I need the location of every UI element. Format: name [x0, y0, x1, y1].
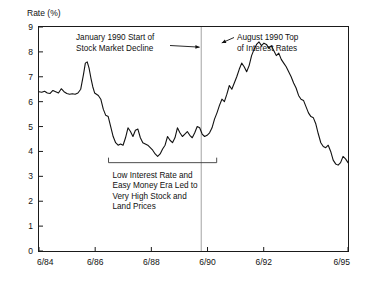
y-tick-label: 2: [28, 196, 33, 206]
annotation-line: Easy Money Era Led to: [113, 181, 199, 190]
chart-canvas: Rate (%) 0123456789 6/846/866/886/906/92…: [0, 0, 374, 284]
annotation-line: Stock Market Decline: [76, 44, 154, 53]
y-tick-label: 3: [28, 171, 33, 181]
y-tick-label: 8: [28, 47, 33, 57]
interest-rate-chart: Rate (%) 0123456789 6/846/866/886/906/92…: [0, 0, 374, 284]
leader-line: [170, 46, 200, 48]
annotation-line: Low Interest Rate and: [113, 171, 194, 180]
y-tick-label: 1: [28, 221, 33, 231]
y-tick-label: 6: [28, 97, 33, 107]
january-1990-leader: [170, 45, 200, 49]
low-rate-era-bracket: [109, 158, 217, 163]
x-tick-label: 6/95: [333, 257, 350, 267]
annotation-line: Land Prices: [113, 202, 156, 211]
x-tick-label: 6/84: [37, 257, 54, 267]
series-line-interest-rate: [39, 42, 348, 165]
series-lines: [39, 42, 348, 165]
x-tick-label: 6/86: [87, 257, 104, 267]
annotation-line: Very High Stock and: [113, 192, 188, 201]
y-tick-label: 7: [28, 72, 33, 82]
low-rate-era-bracket-annotation-text: Low Interest Rate andEasy Money Era Led …: [113, 171, 199, 212]
y-axis-title: Rate (%): [27, 8, 61, 18]
x-tick-label: 6/90: [199, 257, 216, 267]
annotation-line: January 1990 Start of: [76, 33, 155, 42]
y-tick-label: 0: [28, 246, 33, 256]
x-axis-ticks: 6/846/866/886/906/926/95: [37, 247, 350, 267]
annotation-line: August 1990 Top: [237, 33, 299, 42]
august-1990-leader: [222, 38, 234, 43]
y-tick-label: 9: [28, 22, 33, 32]
x-tick-label: 6/88: [143, 257, 160, 267]
plot-frame: [39, 27, 349, 252]
y-tick-label: 5: [28, 122, 33, 132]
annotation-line: of Interest Rates: [237, 44, 297, 53]
y-axis-ticks: 0123456789: [28, 22, 43, 256]
x-tick-label: 6/92: [255, 257, 272, 267]
august-1990-annotation: August 1990 Topof Interest Rates: [237, 33, 299, 53]
arrow-head: [195, 45, 199, 49]
y-tick-label: 4: [28, 146, 33, 156]
january-1990-annotation: January 1990 Start ofStock Market Declin…: [76, 33, 155, 53]
